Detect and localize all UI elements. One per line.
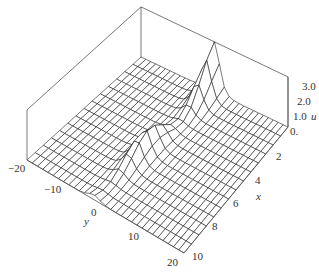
x-tick-label: 4	[255, 174, 261, 186]
u-tick-label: 2.0	[297, 95, 311, 107]
u-tick-label: 0.	[290, 125, 299, 137]
x-axis-label: x	[255, 190, 261, 202]
y-tick-label: 0	[91, 206, 97, 218]
surface-plot: 246810−20−10010203.02.01.00. x y u	[0, 0, 319, 272]
u-axis-label: u	[311, 110, 317, 122]
u-tick-label: 3.0	[302, 80, 316, 92]
x-tick-label: 10	[192, 250, 204, 262]
y-axis-label: y	[83, 215, 89, 227]
y-tick-label: −20	[8, 162, 26, 174]
x-tick-label: 8	[212, 220, 218, 232]
u-tick-label: 1.0	[293, 110, 307, 122]
surface-mesh	[27, 42, 288, 253]
y-tick-label: 10	[128, 230, 140, 242]
x-tick-label: 2	[276, 150, 282, 162]
x-tick-label: 6	[233, 197, 239, 209]
y-tick-label: −10	[44, 183, 62, 195]
y-tick-label: 20	[167, 256, 179, 268]
